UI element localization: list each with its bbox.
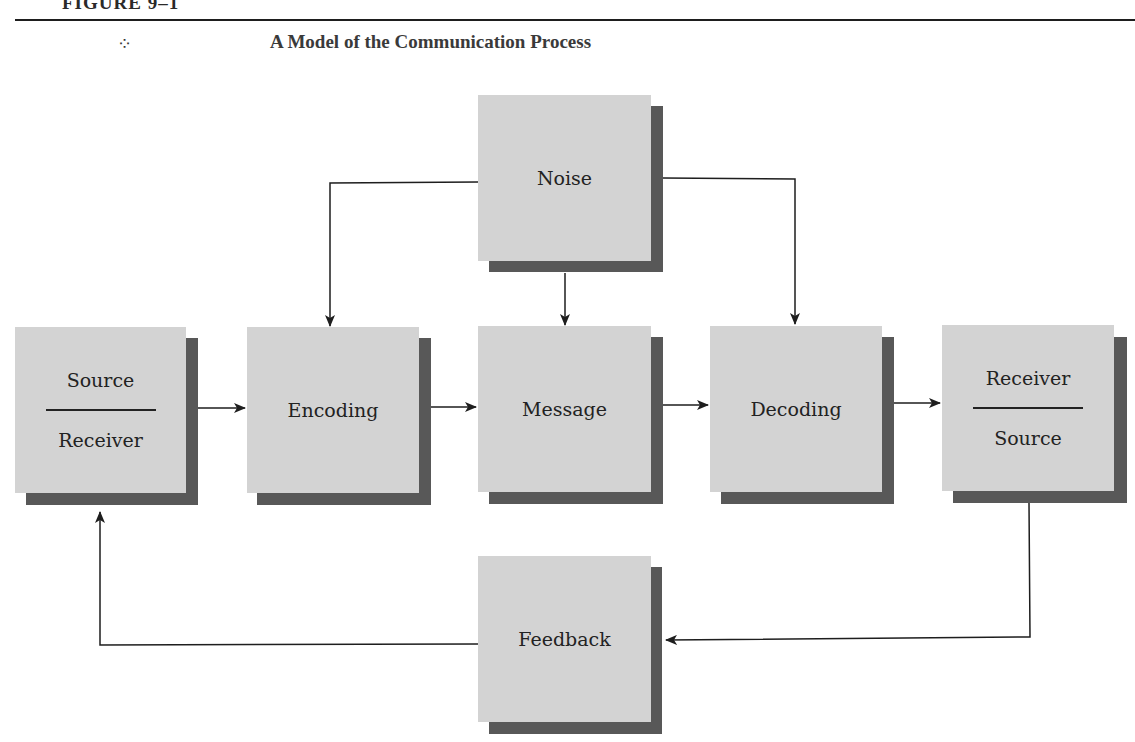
source-label: Source bbox=[994, 427, 1062, 449]
decoding-label: Decoding bbox=[750, 398, 841, 420]
feedback-label: Feedback bbox=[518, 628, 610, 650]
encoding-label: Encoding bbox=[288, 399, 379, 421]
encoding-box: Encoding bbox=[247, 327, 419, 493]
receiver-source-box: Receiver Source bbox=[942, 325, 1114, 491]
source-label: Source bbox=[67, 369, 135, 391]
noise-box: Noise bbox=[478, 95, 651, 261]
receiver-label: Receiver bbox=[58, 429, 143, 451]
message-label: Message bbox=[522, 398, 607, 420]
decoding-box: Decoding bbox=[710, 326, 882, 492]
source-receiver-box: Source Receiver bbox=[15, 327, 186, 493]
noise-label: Noise bbox=[537, 167, 592, 189]
divider bbox=[46, 409, 156, 411]
divider bbox=[973, 407, 1083, 409]
receiver-label: Receiver bbox=[986, 367, 1071, 389]
feedback-box: Feedback bbox=[478, 556, 651, 722]
message-box: Message bbox=[478, 326, 651, 492]
